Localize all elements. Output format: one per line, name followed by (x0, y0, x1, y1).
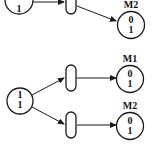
top-m2-token-1: 1 (129, 24, 134, 35)
bottom-net: 1 1 M1 0 1 M2 0 1 (7, 53, 144, 140)
m2-label: M2 (123, 100, 137, 111)
m1-label: M1 (123, 53, 137, 64)
m2-token-1: 1 (128, 125, 133, 136)
top-net: 1 M2 0 1 (5, 0, 145, 39)
upper-transition (66, 65, 76, 91)
top-m2-label: M2 (124, 0, 138, 10)
top-arc-to-m2 (77, 6, 116, 21)
top-transition (66, 0, 76, 14)
arc-to-lower-transition (32, 107, 64, 124)
petri-net-diagram: 1 M2 0 1 1 1 M1 0 1 M2 0 1 (0, 0, 154, 144)
lower-transition (66, 112, 76, 138)
m1-token-1: 1 (128, 78, 133, 89)
bottom-source-token-1: 1 (18, 99, 23, 110)
arc-to-upper-transition (32, 78, 64, 95)
top-source-token: 1 (17, 3, 22, 14)
